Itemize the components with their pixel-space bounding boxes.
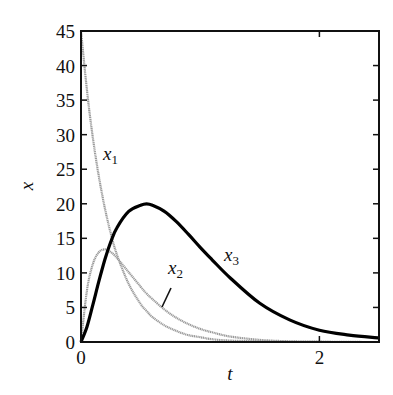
curve-label-x1: x1 — [102, 143, 118, 167]
curve-label-x2: x2 — [167, 257, 183, 281]
y-tick-label: 0 — [66, 332, 76, 353]
y-axis-ticks: 051015202530354045 — [56, 21, 379, 353]
y-tick-label: 25 — [56, 159, 75, 180]
y-tick-label: 45 — [56, 21, 75, 42]
y-tick-label: 10 — [56, 263, 75, 284]
y-axis-label: x — [16, 181, 37, 191]
x2-leader-line — [162, 288, 171, 307]
curve-x1 — [81, 31, 379, 342]
chart: 051015202530354045 02 t x x1 x2 x3 — [0, 0, 393, 395]
x-tick-label: 0 — [76, 347, 86, 368]
plot-curves — [81, 31, 379, 342]
y-tick-label: 30 — [56, 125, 75, 146]
curve-label-x3: x3 — [223, 244, 239, 268]
curve-x3 — [81, 204, 379, 342]
x-axis-label: t — [227, 363, 233, 384]
y-tick-label: 5 — [66, 297, 76, 318]
y-tick-label: 20 — [56, 194, 75, 215]
x-tick-label: 2 — [315, 347, 325, 368]
plot-frame — [81, 31, 379, 342]
y-tick-label: 35 — [56, 90, 75, 111]
y-tick-label: 40 — [56, 56, 75, 77]
y-tick-label: 15 — [56, 228, 75, 249]
